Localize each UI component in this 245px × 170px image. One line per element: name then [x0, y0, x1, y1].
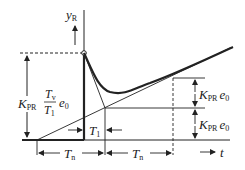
frac-denominator: T1: [44, 103, 55, 118]
tn-right-label: Tn: [132, 146, 143, 162]
frac-numerator: Tv: [45, 87, 56, 102]
diagram-canvas: yR t KPR Tv T1 e0 KPRe0 KPRe0 T1 Tn Tn: [0, 0, 245, 170]
pid-step-response-diagram: yR t KPR Tv T1 e0 KPRe0 KPRe0 T1 Tn Tn: [0, 0, 245, 170]
left-e0-label: e0: [59, 95, 69, 111]
y-axis-label: yR: [64, 7, 78, 23]
response-curve: [84, 47, 233, 93]
left-k-label: KPR: [17, 96, 37, 112]
tn-left-label: Tn: [64, 146, 75, 162]
x-axis-label: t: [220, 145, 224, 160]
right-upper-label: KPRe0: [198, 87, 229, 103]
t1-label: T1: [89, 123, 100, 139]
right-lower-label: KPRe0: [198, 117, 229, 133]
